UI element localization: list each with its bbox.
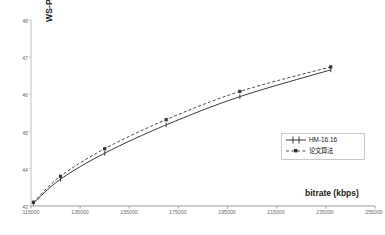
legend-item-hm: HM-16.16 xyxy=(282,134,364,145)
data-point-marker xyxy=(238,90,241,93)
tick-marks xyxy=(29,20,376,209)
data-point-marker xyxy=(165,118,168,121)
plot-area xyxy=(0,0,385,235)
data-point-marker xyxy=(32,201,35,204)
legend-label-hm: HM-16.16 xyxy=(307,136,337,143)
legend-item-proposed: 论文算法 xyxy=(282,145,364,156)
legend-label-proposed: 论文算法 xyxy=(307,146,333,155)
rd-curve-chart: WS-PSNR bitrate (kbps) 48 47 46 45 44 43… xyxy=(0,0,385,235)
legend: HM-16.16 论文算法 xyxy=(281,133,365,160)
data-point-marker xyxy=(329,65,332,68)
legend-marker-dashed-square xyxy=(285,146,307,156)
legend-marker-solid-cross xyxy=(285,135,307,145)
data-point-marker xyxy=(59,175,62,178)
data-point-marker xyxy=(103,147,106,150)
